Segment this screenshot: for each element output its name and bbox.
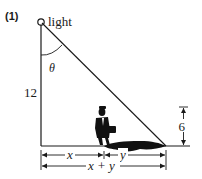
shadow: [104, 141, 166, 151]
pole-height-label: 12: [24, 85, 37, 100]
total-label: x + y: [87, 158, 115, 173]
angle-arc: [41, 45, 62, 55]
problem-number: (1): [5, 10, 19, 22]
light-label: light: [48, 14, 72, 29]
person-height-label: 6: [179, 119, 186, 134]
x-label: x: [66, 147, 73, 162]
light-shadow-diagram: (1) light θ 12 6 x y x + y: [0, 0, 202, 179]
angle-label: θ: [49, 61, 55, 75]
person-figure: [95, 106, 116, 145]
